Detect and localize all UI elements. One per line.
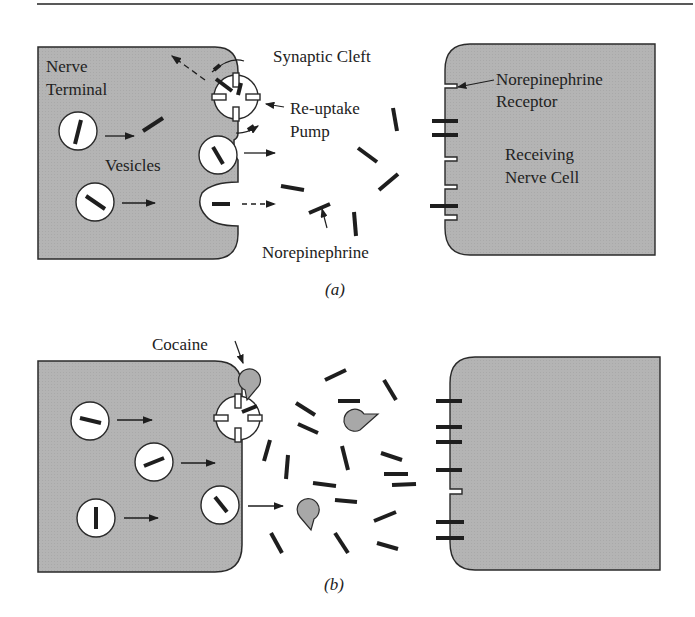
vesicle <box>71 402 109 440</box>
vesicle <box>201 486 239 524</box>
caption-a: (a) <box>325 280 345 299</box>
label-reuptake-pump: Re-uptake <box>290 99 360 118</box>
label-nerve-terminal: Nerve <box>46 57 88 76</box>
label-receiving-nerve-cell: Receiving <box>505 145 574 164</box>
panel-b: Cocaine <box>38 335 660 594</box>
label-receptor: Receptor <box>496 92 558 111</box>
pump-label-arrow <box>266 104 284 107</box>
caption-b: (b) <box>324 575 344 594</box>
label-vesicles: Vesicles <box>105 156 161 175</box>
label-synaptic-cleft: Synaptic Cleft <box>273 47 371 66</box>
synapse-diagram: Nerve Terminal Synaptic Cleft Re-uptake … <box>0 0 695 617</box>
cocaine-pointer <box>235 341 243 363</box>
cocaine-molecule <box>344 409 378 431</box>
label-reuptake-pump: Pump <box>290 122 330 141</box>
vesicle <box>135 443 173 481</box>
label-norepinephrine: Norepinephrine <box>262 243 369 262</box>
label-cocaine: Cocaine <box>152 335 208 354</box>
panel-a: Nerve Terminal Synaptic Cleft Re-uptake … <box>38 44 655 299</box>
norepinephrine-pointer <box>322 209 327 228</box>
vesicle <box>77 499 115 537</box>
norepinephrine-molecules <box>264 370 416 553</box>
label-nerve-terminal: Terminal <box>46 80 107 99</box>
receiving-nerve-cell <box>450 357 660 570</box>
vesicle <box>199 136 237 174</box>
vesicle <box>76 183 114 221</box>
label-receptor: Norepinephrine <box>496 70 603 89</box>
vesicle <box>59 112 97 150</box>
cocaine-molecule <box>297 499 319 530</box>
label-receiving-nerve-cell: Nerve Cell <box>505 168 579 187</box>
